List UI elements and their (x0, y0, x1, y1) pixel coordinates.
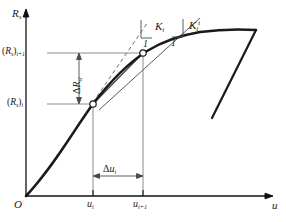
x-axis-ticks (93, 190, 143, 196)
delta-r-label: ΔRsi (72, 77, 82, 94)
delta-r-arrow-up (77, 53, 82, 60)
x-axis-arrowhead (265, 193, 273, 199)
secant-line-dashed (89, 22, 148, 108)
tangent-line (99, 18, 200, 110)
y-axis-label: Rs (12, 8, 21, 19)
delta-u-arrow-left (93, 174, 100, 179)
delta-u-dimension (93, 174, 143, 179)
y-value-label-next: (Rs)i+1 (2, 47, 25, 57)
slope-triangle-tangent (172, 19, 183, 37)
delta-u-label: Δui (103, 164, 116, 174)
secant-stiffness-label: Ki (155, 21, 164, 32)
delta-u-arrow-right (137, 174, 144, 179)
softening-branch (212, 30, 256, 118)
tangent-unit-rise-label: 1 (171, 38, 176, 48)
x-tick-label-next: ui+1 (133, 199, 147, 209)
delta-r-arrow-down (77, 98, 82, 105)
y-value-label-current: (Rs)i (7, 98, 23, 108)
point-marker-i-next (140, 50, 146, 56)
point-marker-i (90, 101, 96, 107)
load-displacement-diagram: Rs u O (Rs)i+1 (Rs)i ui ui+1 Δui ΔRsi Ki… (0, 0, 286, 222)
x-tick-label-current: ui (87, 199, 94, 209)
origin-label: O (14, 199, 22, 210)
guide-lines (47, 53, 143, 196)
tangent-stiffness-label: Kit (189, 20, 200, 31)
y-axis-arrowhead (23, 9, 29, 17)
slope-triangle-secant (141, 20, 152, 38)
secant-unit-rise-label: 1 (143, 39, 148, 49)
diagram-canvas (0, 0, 286, 222)
x-axis-label: u (272, 200, 278, 211)
